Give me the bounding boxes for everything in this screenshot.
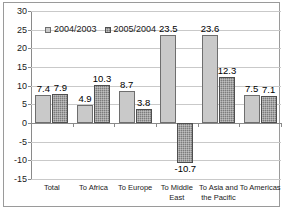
x-tick-mark xyxy=(198,123,199,127)
bar-series-1 xyxy=(160,35,176,123)
chart-legend: 2004/2003 2005/2004 xyxy=(45,25,156,34)
x-category-label: To Europe xyxy=(114,183,156,193)
y-tick-label: 15 xyxy=(17,63,27,72)
chart-border-frame: 302520151050-5-10-15 7.47.94.910.38.73.8… xyxy=(3,2,280,207)
y-tick-label: 20 xyxy=(17,44,27,53)
legend-swatch-icon-series-2 xyxy=(105,27,111,33)
bar-value-label: 7.1 xyxy=(257,85,281,95)
legend-swatch-icon-series-1 xyxy=(45,27,51,33)
y-tick-label: 0 xyxy=(22,119,27,128)
bar-series-1 xyxy=(77,105,93,123)
bar-group: 4.910.3 xyxy=(73,11,115,179)
x-tick-mark xyxy=(156,123,157,127)
y-tick-label: 10 xyxy=(17,82,27,91)
bar-value-label: 12.3 xyxy=(215,66,239,76)
y-tick-label: 5 xyxy=(22,100,27,109)
x-category-label: To Africa xyxy=(73,183,115,193)
bar-value-label: 23.5 xyxy=(156,24,180,34)
x-category-label: To Asia and the Pacific xyxy=(198,183,240,202)
bar-group: 7.47.9 xyxy=(31,11,73,179)
bar-series-2 xyxy=(177,123,193,163)
x-tick-mark xyxy=(73,123,74,127)
x-category-label: Total xyxy=(31,183,73,193)
bar-value-label: 8.7 xyxy=(115,80,139,90)
x-tick-mark xyxy=(281,123,282,127)
bar-series-1 xyxy=(244,95,260,123)
bar-group: 8.73.8 xyxy=(114,11,156,179)
bar-value-label: -10.7 xyxy=(173,164,197,174)
bar-series-2 xyxy=(94,85,110,123)
legend-label-series-1: 2004/2003 xyxy=(54,25,97,34)
x-axis-category-labels: TotalTo AfricaTo EuropeTo Middle EastTo … xyxy=(31,183,281,209)
bar-series-2 xyxy=(136,109,152,123)
bar-series-1 xyxy=(202,35,218,123)
bar-chart-figure: 302520151050-5-10-15 7.47.94.910.38.73.8… xyxy=(0,0,284,211)
y-tick-mark xyxy=(28,179,31,180)
x-category-label: To Middle East xyxy=(156,183,198,202)
bar-series-2 xyxy=(261,96,277,123)
legend-item-series-1: 2004/2003 xyxy=(45,25,97,34)
y-tick-label: 30 xyxy=(17,7,27,16)
x-tick-mark xyxy=(114,123,115,127)
y-tick-label: 25 xyxy=(17,26,27,35)
legend-item-series-2: 2005/2004 xyxy=(105,25,157,34)
bar-series-2 xyxy=(52,94,68,123)
y-tick-label: -5 xyxy=(19,138,27,147)
y-tick-label: -15 xyxy=(14,175,27,184)
bar-series-1 xyxy=(35,95,51,123)
y-tick-label: -10 xyxy=(14,156,27,165)
x-tick-mark xyxy=(239,123,240,127)
bar-group: 7.57.1 xyxy=(239,11,281,179)
bar-value-label: 3.8 xyxy=(132,98,156,108)
plot-area: 302520151050-5-10-15 7.47.94.910.38.73.8… xyxy=(31,11,281,179)
bar-series-2 xyxy=(219,77,235,123)
gridline xyxy=(31,179,281,180)
bar-group: 23.5-10.7 xyxy=(156,11,198,179)
legend-label-series-2: 2005/2004 xyxy=(114,25,157,34)
bar-value-label: 23.6 xyxy=(198,24,222,34)
bar-group: 23.612.3 xyxy=(198,11,240,179)
bar-value-label: 7.9 xyxy=(48,83,72,93)
bar-value-label: 10.3 xyxy=(90,74,114,84)
x-category-label: To Americas xyxy=(239,183,281,193)
